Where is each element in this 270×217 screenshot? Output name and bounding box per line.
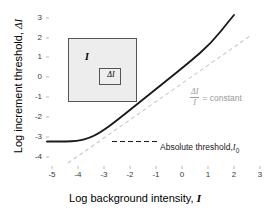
x-axis-title: Log background intensity, I (0, 192, 270, 204)
inset-background-label: I (85, 51, 89, 62)
y-axis-title-symbol: ΔI (12, 19, 24, 29)
x-axis-title-symbol: I (197, 192, 201, 204)
absolute-threshold-text: Absolute threshold, (160, 142, 233, 152)
xtick-label: 2 (227, 170, 241, 179)
ytick-label: 3 (30, 13, 42, 22)
xtick-label: -5 (45, 170, 59, 179)
x-axis-title-text: Log background intensity, (69, 192, 197, 204)
absolute-threshold-subscript: 0 (236, 147, 240, 154)
y-axis-title-text: Log increment threshold, (12, 29, 24, 153)
xtick-label: -4 (71, 170, 85, 179)
y-axis-title: Log increment threshold, ΔI (12, 6, 24, 166)
y-tick-marks (46, 18, 49, 157)
xtick-label: 0 (175, 170, 189, 179)
weber-fraction: ΔI I (190, 88, 199, 107)
xtick-label: -3 (97, 170, 111, 179)
xtick-label: 3 (253, 170, 267, 179)
weber-denominator: I (192, 99, 197, 107)
ytick-label: -4 (30, 152, 42, 161)
weber-constant-annotation: ΔI I = constant (190, 88, 242, 107)
xtick-label: -2 (123, 170, 137, 179)
ytick-label: -1 (30, 92, 42, 101)
x-tick-marks (52, 166, 260, 169)
weber-numerator: ΔI (190, 88, 199, 96)
ytick-label: -3 (30, 132, 42, 141)
weber-constant-text: = constant (202, 93, 241, 103)
chart-container: 3 2 1 0 -1 -2 -3 -4 -5 -4 -3 -2 -1 0 1 2… (0, 0, 270, 217)
ytick-label: 2 (30, 33, 42, 42)
inset-increment-box: ΔI (99, 68, 121, 85)
xtick-label: 1 (201, 170, 215, 179)
ytick-label: -2 (30, 112, 42, 121)
inset-stimulus-diagram: I ΔI (68, 38, 137, 102)
ytick-label: 0 (30, 72, 42, 81)
absolute-threshold-annotation: Absolute threshold,I0 (160, 142, 239, 154)
ytick-label: 1 (30, 52, 42, 61)
xtick-label: -1 (149, 170, 163, 179)
inset-increment-label: ΔI (100, 70, 122, 79)
